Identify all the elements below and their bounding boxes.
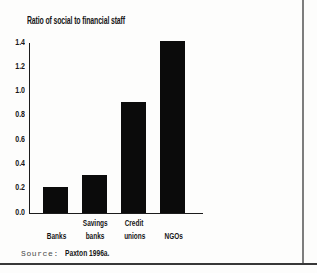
y-axis-line [29, 43, 30, 215]
y-tick-label-1.0: 1.0 [9, 85, 25, 95]
y-tick-label-0.4: 0.4 [9, 158, 25, 168]
y-tick-label-0.0: 0.0 [9, 207, 25, 217]
bar-savings-banks [82, 175, 107, 213]
y-tick-label-1.4: 1.4 [9, 37, 25, 47]
bar-credit-unions [121, 102, 146, 213]
source-line: Source: Paxton 1996a. [21, 248, 125, 258]
page-bottom-rule [0, 263, 317, 265]
y-tick-label-0.6: 0.6 [9, 134, 25, 144]
x-category-label-ngos: NGOs [142, 215, 206, 242]
chart-title: Ratio of social to financial staff [27, 14, 125, 26]
bar-banks [43, 187, 68, 213]
y-tick-label-1.2: 1.2 [9, 61, 25, 71]
source-prefix-label: Source: [21, 249, 59, 258]
page-right-rule [302, 0, 304, 265]
x-axis-line [29, 213, 203, 214]
y-tick-label-0.2: 0.2 [9, 182, 25, 192]
y-tick-label-0.8: 0.8 [9, 109, 25, 119]
source-citation: Paxton 1996a. [65, 248, 109, 258]
bar-ngos [160, 41, 185, 213]
scanned-figure: Ratio of social to financial staff 0.00.… [0, 0, 317, 273]
